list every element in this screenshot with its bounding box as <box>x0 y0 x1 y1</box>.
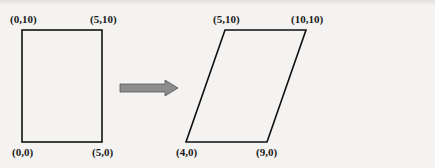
source-rectangle <box>22 30 102 142</box>
transform-arrow-icon <box>120 80 178 96</box>
para-bottom-right-label: (9,0) <box>256 146 277 158</box>
rect-bottom-right-label: (5,0) <box>92 146 113 158</box>
para-bottom-left-label: (4,0) <box>176 146 197 158</box>
target-parallelogram <box>186 30 306 142</box>
rect-bottom-left-label: (0,0) <box>12 146 33 158</box>
para-top-right-label: (10,10) <box>291 13 323 25</box>
rect-top-left-label: (0,10) <box>10 13 37 25</box>
rect-top-right-label: (5,10) <box>90 13 117 25</box>
para-top-left-label: (5,10) <box>213 13 240 25</box>
transformation-diagram <box>0 0 435 168</box>
